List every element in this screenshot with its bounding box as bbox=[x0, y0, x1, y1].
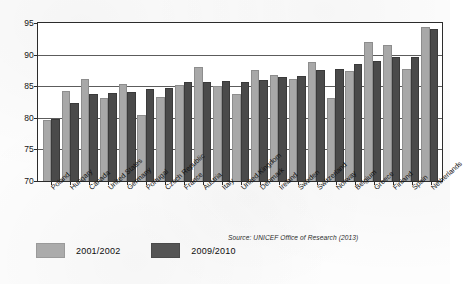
bar-group bbox=[118, 23, 137, 181]
bar-series-container bbox=[38, 23, 442, 181]
bar bbox=[364, 42, 373, 181]
bar bbox=[203, 82, 212, 181]
bar bbox=[316, 70, 325, 181]
x-axis-label-slot: Canada bbox=[79, 183, 98, 245]
bar bbox=[289, 79, 298, 181]
bar bbox=[373, 61, 382, 181]
bar bbox=[222, 81, 231, 181]
bar-group bbox=[307, 23, 326, 181]
legend-swatch-2009-2010 bbox=[151, 243, 180, 258]
plot-area: 707580859095 bbox=[37, 22, 443, 182]
bar bbox=[241, 82, 250, 181]
bar-group bbox=[345, 23, 364, 181]
bar-group bbox=[99, 23, 118, 181]
bar-group bbox=[42, 23, 61, 181]
y-axis-tick-label-90: 90 bbox=[24, 50, 34, 60]
bar bbox=[308, 62, 317, 181]
bar bbox=[430, 29, 439, 181]
bar bbox=[70, 103, 79, 181]
bar-group bbox=[326, 23, 345, 181]
bar-group bbox=[401, 23, 420, 181]
bar bbox=[232, 94, 241, 181]
bar bbox=[165, 88, 174, 181]
x-axis-label-slot: Portugal bbox=[136, 183, 155, 245]
y-axis-tick-label-95: 95 bbox=[24, 18, 34, 28]
bar-group bbox=[363, 23, 382, 181]
bar bbox=[392, 57, 401, 182]
bar-group bbox=[155, 23, 174, 181]
bar bbox=[89, 94, 98, 181]
x-axis-label-slot: Greece bbox=[364, 183, 383, 245]
x-axis-label-slot: Czech Republic bbox=[155, 183, 174, 245]
legend-label-2009-2010: 2009/2010 bbox=[191, 246, 235, 256]
x-axis-label-slot: Poland bbox=[41, 183, 60, 245]
x-axis-label-slot: United States bbox=[98, 183, 117, 245]
y-axis-tick-label-85: 85 bbox=[24, 81, 34, 91]
y-axis-tick-label-70: 70 bbox=[24, 176, 34, 186]
bar bbox=[251, 70, 260, 181]
bar bbox=[383, 45, 392, 181]
x-axis-label-slot: Finland bbox=[383, 183, 402, 245]
bar bbox=[354, 64, 363, 181]
bar-group bbox=[174, 23, 193, 181]
bar-group bbox=[80, 23, 99, 181]
bar bbox=[421, 27, 430, 181]
y-axis-tick-mark-70 bbox=[34, 181, 38, 182]
bar bbox=[108, 93, 117, 181]
bar-group bbox=[61, 23, 80, 181]
bar bbox=[51, 119, 60, 181]
legend-item-1: 2009/2010 bbox=[151, 243, 235, 258]
x-axis-label-slot: Hungary bbox=[60, 183, 79, 245]
bar bbox=[43, 120, 52, 181]
bar-group bbox=[420, 23, 439, 181]
bar bbox=[297, 76, 306, 181]
bar bbox=[213, 86, 222, 181]
legend-label-2001-2002: 2001/2002 bbox=[76, 246, 120, 256]
legend-swatch-2001-2002 bbox=[36, 243, 65, 258]
bar-group bbox=[250, 23, 269, 181]
bar bbox=[402, 69, 411, 181]
source-note: Source: UNICEF Office of Research (2013) bbox=[228, 234, 358, 241]
bar-group bbox=[212, 23, 231, 181]
x-axis-label-slot: Germany bbox=[117, 183, 136, 245]
bar-group bbox=[288, 23, 307, 181]
x-axis-label-slot: Spain bbox=[402, 183, 421, 245]
bar bbox=[62, 91, 71, 181]
x-axis-label-slot: Austria bbox=[193, 183, 212, 245]
legend-item-0: 2001/2002 bbox=[36, 243, 120, 258]
chart-legend: 2001/2002 2009/2010 bbox=[36, 243, 236, 258]
y-axis-tick-label-75: 75 bbox=[24, 144, 34, 154]
x-axis-label-slot: France bbox=[174, 183, 193, 245]
bar-group bbox=[231, 23, 250, 181]
y-axis-tick-label-80: 80 bbox=[24, 113, 34, 123]
bar-group bbox=[382, 23, 401, 181]
bar bbox=[411, 57, 420, 182]
x-axis-label-slot: Netherlands bbox=[421, 183, 440, 245]
